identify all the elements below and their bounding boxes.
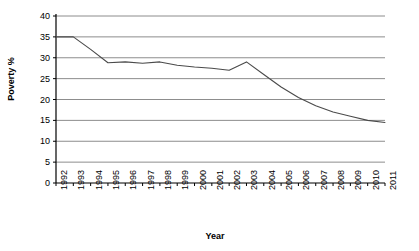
x-axis-label: Year <box>170 231 260 241</box>
poverty-line-chart: Poverty % 0510152025303540 1992199319941… <box>0 0 419 251</box>
plot-area <box>0 0 419 251</box>
data-series-line <box>56 37 385 123</box>
